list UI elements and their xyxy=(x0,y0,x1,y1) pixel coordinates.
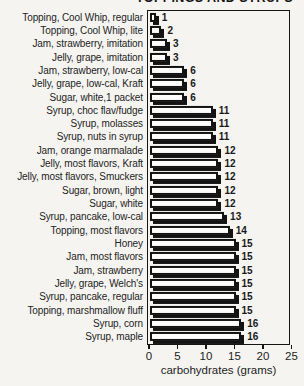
value-label: 12 xyxy=(224,199,235,209)
bar xyxy=(150,159,218,168)
bar xyxy=(150,239,236,248)
x-tick-mark xyxy=(234,345,236,349)
chart-title-clipped: TOPPINGS AND SYRUPS xyxy=(136,0,304,6)
category-label: Jam, strawberry xyxy=(0,266,148,276)
bar-row: Jam, orange marmalade12 xyxy=(0,144,304,157)
category-label: Topping, marshmallow fluff xyxy=(0,306,148,316)
x-axis-label: carbohydrates (grams) xyxy=(147,364,290,376)
bar xyxy=(150,39,167,48)
bar-zone: 6 xyxy=(148,64,304,77)
value-label: 12 xyxy=(224,172,235,182)
bar-zone: 12 xyxy=(148,184,304,197)
x-tick-mark xyxy=(291,345,293,349)
bar xyxy=(150,92,184,101)
bar-row: Jam, strawberry, imitation3 xyxy=(0,38,304,51)
bar xyxy=(150,332,241,341)
bar-row: Topping, Cool Whip, lite2 xyxy=(0,24,304,37)
bar-zone: 15 xyxy=(148,304,304,317)
value-label: 6 xyxy=(190,93,196,103)
bar-rows: Topping, Cool Whip, regular1Topping, Coo… xyxy=(0,11,304,344)
category-label: Jelly, grape, imitation xyxy=(0,53,148,63)
bar xyxy=(150,226,230,235)
bar-zone: 6 xyxy=(148,78,304,91)
category-label: Syrup, nuts in syrup xyxy=(0,132,148,142)
bar xyxy=(150,13,156,22)
bar xyxy=(150,305,236,314)
value-label: 11 xyxy=(219,106,230,116)
category-label: Topping, Cool Whip, lite xyxy=(0,26,148,36)
category-label: Jam, strawberry, imitation xyxy=(0,39,148,49)
category-label: Syrup, molasses xyxy=(0,119,148,129)
category-label: Syrup, pancake, regular xyxy=(0,292,148,302)
value-label: 16 xyxy=(247,319,258,329)
value-label: 12 xyxy=(224,146,235,156)
bar xyxy=(150,66,184,75)
bar-row: Sugar, white,1 packet6 xyxy=(0,91,304,104)
bar-zone: 12 xyxy=(148,171,304,184)
bar-row: Syrup, corn16 xyxy=(0,317,304,330)
category-label: Syrup, pancake, low-cal xyxy=(0,212,148,222)
bar-zone: 15 xyxy=(148,291,304,304)
value-label: 2 xyxy=(167,26,173,36)
value-label: 12 xyxy=(224,186,235,196)
bar-row: Syrup, pancake, low-cal13 xyxy=(0,211,304,224)
value-label: 15 xyxy=(242,252,253,262)
bar-zone: 11 xyxy=(148,131,304,144)
value-label: 15 xyxy=(242,306,253,316)
value-label: 12 xyxy=(224,159,235,169)
x-tick-label: 15 xyxy=(228,350,241,362)
category-label: Jelly, grape, Welch's xyxy=(0,279,148,289)
bar xyxy=(150,53,167,62)
bar-row: Syrup, nuts in syrup11 xyxy=(0,131,304,144)
bar-zone: 3 xyxy=(148,38,304,51)
bar xyxy=(150,186,218,195)
bar xyxy=(150,279,236,288)
value-label: 15 xyxy=(242,239,253,249)
bar-zone: 6 xyxy=(148,91,304,104)
value-label: 1 xyxy=(162,13,168,23)
x-tick-label: 10 xyxy=(200,350,213,362)
value-label: 11 xyxy=(219,119,230,129)
category-label: Honey xyxy=(0,239,148,249)
bar-row: Syrup, maple16 xyxy=(0,331,304,344)
category-label: Jam, orange marmalade xyxy=(0,146,148,156)
bar xyxy=(150,252,236,261)
bar-row: Jelly, most flavors, Smuckers12 xyxy=(0,171,304,184)
bar xyxy=(150,79,184,88)
category-label: Sugar, white,1 packet xyxy=(0,93,148,103)
bar xyxy=(150,26,161,35)
bar-row: Topping, Cool Whip, regular1 xyxy=(0,11,304,24)
bar-row: Sugar, white12 xyxy=(0,197,304,210)
category-label: Topping, Cool Whip, regular xyxy=(0,13,148,23)
x-tick-mark xyxy=(205,345,207,349)
value-label: 6 xyxy=(190,66,196,76)
x-tick-label: 25 xyxy=(285,350,298,362)
bar-row: Topping, marshmallow fluff15 xyxy=(0,304,304,317)
x-tick-label: 0 xyxy=(146,350,152,362)
bar-zone: 12 xyxy=(148,197,304,210)
bar-zone: 11 xyxy=(148,118,304,131)
bar-zone: 1 xyxy=(148,11,304,24)
x-tick-mark xyxy=(262,345,264,349)
bar-row: Syrup, choc flav/fudge11 xyxy=(0,104,304,117)
bar-zone: 16 xyxy=(148,331,304,344)
value-label: 14 xyxy=(236,226,247,236)
category-label: Jam, most flavors xyxy=(0,252,148,262)
bar-row: Sugar, brown, light12 xyxy=(0,184,304,197)
value-label: 13 xyxy=(230,212,241,222)
value-label: 6 xyxy=(190,79,196,89)
category-label: Sugar, white xyxy=(0,199,148,209)
x-tick-mark xyxy=(177,345,179,349)
value-label: 15 xyxy=(242,279,253,289)
bar-zone: 15 xyxy=(148,277,304,290)
bar xyxy=(150,292,236,301)
bar-row: Jam, strawberry15 xyxy=(0,264,304,277)
category-label: Jelly, most flavors, Kraft xyxy=(0,159,148,169)
bar xyxy=(150,172,218,181)
bar-zone: 12 xyxy=(148,157,304,170)
bar-row: Jam, strawberry, low-cal6 xyxy=(0,64,304,77)
bar xyxy=(150,119,213,128)
x-tick-label: 20 xyxy=(257,350,270,362)
bar-zone: 12 xyxy=(148,144,304,157)
chart-title-text: TOPPINGS AND SYRUPS xyxy=(136,0,304,5)
